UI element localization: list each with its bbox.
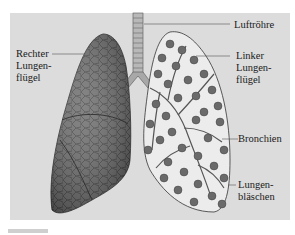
label-left-lung: Linker Lungen- flügel (236, 50, 272, 86)
label-bronchi: Bronchien (238, 133, 282, 145)
label-right-lung: Rechter Lungen- flügel (16, 48, 52, 84)
label-alveoli: Lungen- bläschen (238, 179, 275, 203)
left-lung (144, 32, 230, 212)
caption-fragment (8, 229, 48, 233)
label-trachea: Luftröhre (234, 19, 274, 31)
right-lung (51, 34, 131, 213)
